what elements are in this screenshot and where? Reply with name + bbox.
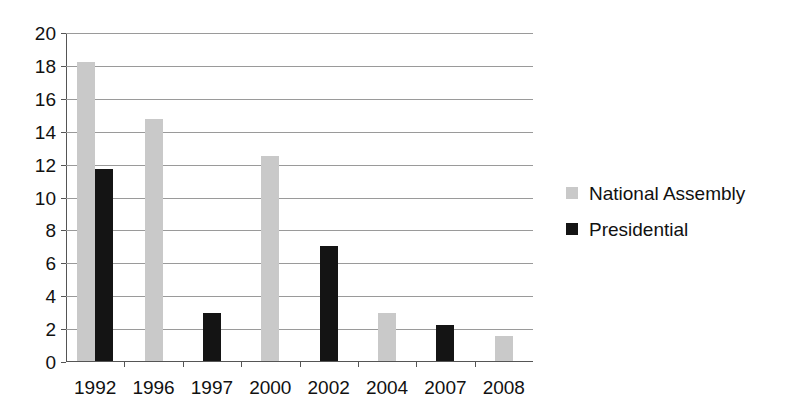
- y-tick-mark: [61, 165, 66, 166]
- y-tick-mark: [61, 362, 66, 363]
- y-tick-label: 18: [22, 56, 56, 75]
- gridline: [66, 230, 533, 231]
- y-tick-label: 0: [22, 353, 56, 372]
- legend-item-national: National Assembly: [566, 175, 745, 211]
- x-tick-label-2000: 2000: [249, 378, 291, 397]
- bar-2007-presidential: [436, 325, 454, 361]
- bar-2004-national-assembly: [378, 313, 396, 361]
- y-tick-label: 10: [22, 188, 56, 207]
- x-tick-mark: [358, 362, 359, 367]
- x-tick-mark: [475, 362, 476, 367]
- x-tick-label-2008: 2008: [483, 378, 525, 397]
- x-tick-label-1992: 1992: [74, 378, 116, 397]
- x-tick-mark: [183, 362, 184, 367]
- y-tick-mark: [61, 132, 66, 133]
- bar-1992-presidential: [95, 169, 113, 361]
- gridline: [66, 329, 533, 330]
- y-tick-label: 20: [22, 24, 56, 43]
- y-tick-label: 2: [22, 320, 56, 339]
- y-tick-label: 16: [22, 89, 56, 108]
- y-tick-mark: [61, 198, 66, 199]
- x-tick-mark: [300, 362, 301, 367]
- y-tick-mark: [61, 329, 66, 330]
- gridline: [66, 296, 533, 297]
- bar-chart: 19921996199720002002200420072008 0246810…: [0, 0, 786, 409]
- x-tick-mark: [124, 362, 125, 367]
- y-tick-mark: [61, 66, 66, 67]
- legend-item-presidential: Presidential: [566, 211, 745, 247]
- gridline: [66, 132, 533, 133]
- x-tick-label-1996: 1996: [132, 378, 174, 397]
- x-tick-mark: [416, 362, 417, 367]
- y-tick-label: 6: [22, 254, 56, 273]
- bar-1992-national-assembly: [77, 62, 95, 361]
- y-tick-label: 8: [22, 221, 56, 240]
- plot-area: 19921996199720002002200420072008: [66, 33, 533, 362]
- chart-legend: National AssemblyPresidential: [566, 175, 745, 247]
- x-tick-label-2002: 2002: [308, 378, 350, 397]
- legend-label: National Assembly: [589, 184, 745, 203]
- gridline: [66, 66, 533, 67]
- x-tick-label-2004: 2004: [366, 378, 408, 397]
- legend-swatch-national-icon: [566, 187, 578, 199]
- y-tick-mark: [61, 263, 66, 264]
- bar-1997-presidential: [203, 313, 221, 361]
- x-tick-mark: [241, 362, 242, 367]
- x-tick-label-2007: 2007: [424, 378, 466, 397]
- legend-swatch-presidential-icon: [566, 223, 578, 235]
- gridline: [66, 165, 533, 166]
- x-tick-label-1997: 1997: [191, 378, 233, 397]
- gridline: [66, 33, 533, 34]
- y-tick-mark: [61, 230, 66, 231]
- bar-2008-national-assembly: [495, 336, 513, 361]
- legend-label: Presidential: [589, 220, 688, 239]
- gridline: [66, 198, 533, 199]
- y-tick-mark: [61, 99, 66, 100]
- bar-1996-national-assembly: [145, 119, 163, 361]
- y-tick-mark: [61, 33, 66, 34]
- gridline: [66, 263, 533, 264]
- y-tick-label: 4: [22, 287, 56, 306]
- y-tick-label: 14: [22, 122, 56, 141]
- bar-2000-national-assembly: [261, 156, 279, 361]
- y-tick-mark: [61, 296, 66, 297]
- gridline: [66, 99, 533, 100]
- bar-2002-presidential: [320, 246, 338, 361]
- y-tick-label: 12: [22, 155, 56, 174]
